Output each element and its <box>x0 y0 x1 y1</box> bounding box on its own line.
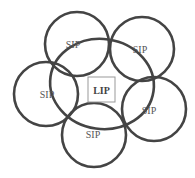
sip-label-1: SIP <box>66 39 81 50</box>
sip-label-2: SIP <box>133 44 148 55</box>
sip-label-3: SIP <box>40 89 55 100</box>
sip-label-5: SIP <box>86 129 101 140</box>
sip-label-4: SIP <box>142 105 157 116</box>
sip-lip-diagram: SIPSIPSIPSIPSIP LIP <box>0 0 195 178</box>
lip-label: LIP <box>93 85 110 96</box>
